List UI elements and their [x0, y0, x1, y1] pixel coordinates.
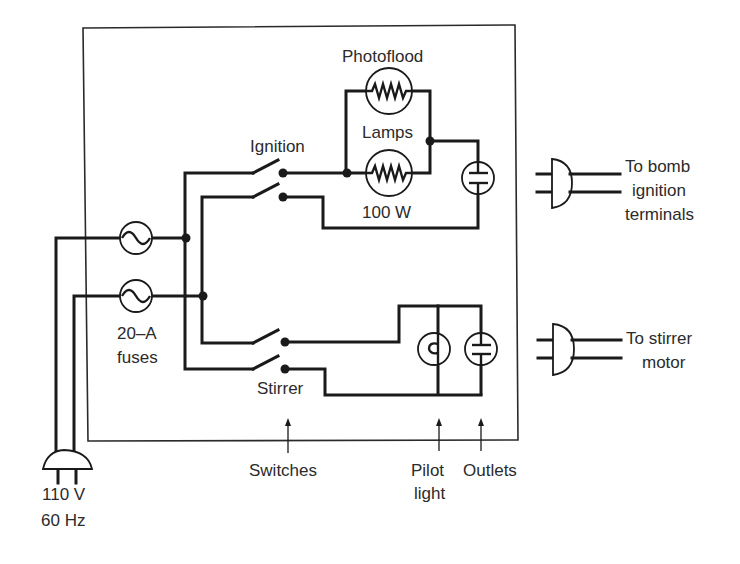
stirrer-supply-wire	[285, 306, 481, 394]
mains-wire-a	[56, 238, 122, 452]
ignition-outlet	[462, 162, 494, 194]
photoflood-lamp-2	[366, 150, 412, 196]
bus-b	[202, 197, 253, 343]
to-bomb-label-1: To bomb	[625, 157, 690, 176]
ignition-switch	[253, 160, 288, 202]
outlets-arrow	[478, 418, 484, 451]
fuse-1	[120, 222, 187, 254]
switches-label: Switches	[249, 461, 317, 480]
junction-dot	[182, 234, 191, 243]
switches-arrow	[285, 418, 291, 453]
voltage-label: 110 V	[42, 485, 86, 504]
fuses-label: fuses	[117, 348, 158, 367]
bomb-ignition-plug	[537, 159, 620, 208]
fuse-2	[120, 280, 204, 312]
stirrer-label: Stirrer	[257, 379, 304, 398]
mains-wire-b	[74, 296, 122, 452]
wiring-diagram: Photoflood Lamps 100 W Ignition Stirrer …	[0, 0, 740, 564]
photoflood-label: Photoflood	[342, 47, 423, 66]
lamp-to-outlet-wire	[430, 141, 478, 163]
lamps-label: Lamps	[362, 123, 413, 142]
stirrer-return-wire	[285, 369, 481, 395]
junction-dot	[199, 292, 208, 301]
to-stirrer-label-1: To stirrer	[626, 329, 692, 348]
mains-plug	[43, 450, 92, 483]
fuse-rating-label: 20–A	[117, 324, 157, 343]
bus-a	[185, 173, 253, 369]
wattage-label: 100 W	[362, 203, 411, 222]
frequency-label: 60 Hz	[41, 511, 85, 530]
pilot-label-2: light	[414, 484, 445, 503]
to-bomb-label-2: ignition	[632, 181, 686, 200]
to-stirrer-label-2: motor	[642, 353, 686, 372]
pilot-light-arrow	[436, 418, 442, 451]
pilot-label-1: Pilot	[411, 461, 444, 480]
stirrer-motor-plug	[538, 324, 621, 375]
junction-dot	[343, 169, 352, 178]
stirrer-outlet	[465, 333, 497, 365]
ignition-label: Ignition	[250, 137, 305, 156]
lamp-parallel-right	[412, 91, 430, 173]
pilot-light	[418, 333, 450, 365]
photoflood-lamp-1	[366, 68, 412, 114]
to-bomb-label-3: terminals	[625, 205, 694, 224]
stirrer-switch	[253, 330, 290, 374]
outlets-label: Outlets	[463, 461, 517, 480]
